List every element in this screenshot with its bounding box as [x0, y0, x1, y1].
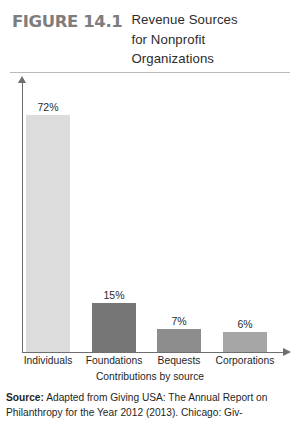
x-axis-line	[22, 352, 284, 353]
category-label-foundations: Foundations	[86, 355, 143, 366]
header-divider	[10, 72, 290, 73]
figure-card: FIGURE 14.1 Revenue Sources for Nonprofi…	[0, 0, 300, 423]
bar-chart: 72% 15% 7% 6%	[0, 76, 300, 366]
figure-header: FIGURE 14.1 Revenue Sources for Nonprofi…	[0, 0, 300, 72]
source-note: Source: Adapted from Giving USA: The Ann…	[6, 391, 296, 420]
figure-title: Revenue Sources for Nonprofit Organizati…	[131, 10, 237, 69]
category-label-corporations: Corporations	[216, 355, 275, 366]
bar-corporations: 6%	[223, 332, 267, 352]
bar-value-label-foundations: 15%	[103, 289, 124, 301]
bar-bequests: 7%	[157, 329, 201, 352]
y-axis-line	[22, 82, 23, 353]
source-note-label: Source:	[6, 392, 44, 403]
figure-title-line-2: for Nonprofit	[131, 30, 237, 50]
bar-value-label-individuals: 72%	[37, 101, 58, 113]
bar-individuals: 72%	[26, 115, 70, 352]
x-axis-category-labels: Individuals Foundations Bequests Corpora…	[0, 355, 300, 371]
figure-title-line-1: Revenue Sources	[131, 10, 237, 30]
source-note-text: Adapted from Giving USA: The Annual Repo…	[6, 392, 267, 418]
bar-value-label-corporations: 6%	[237, 318, 252, 330]
bar-value-label-bequests: 7%	[171, 315, 186, 327]
bar-foundations: 15%	[92, 303, 136, 352]
figure-number-label: FIGURE 14.1	[12, 12, 122, 31]
figure-title-line-3: Organizations	[131, 49, 237, 69]
category-label-bequests: Bequests	[158, 355, 201, 366]
category-label-individuals: Individuals	[24, 355, 73, 366]
x-axis-title: Contributions by source	[0, 371, 300, 382]
